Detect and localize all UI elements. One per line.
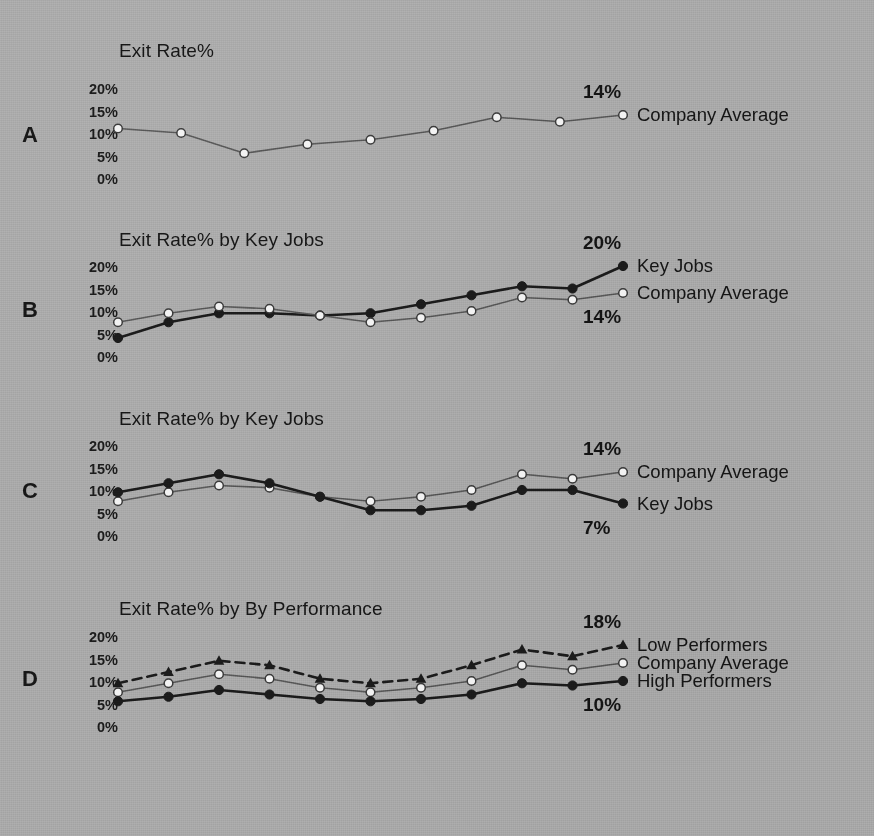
data-point-marker [416, 300, 425, 309]
y-tick-label: 15% [89, 283, 118, 298]
data-point-marker [366, 506, 375, 515]
data-point-marker [618, 639, 629, 649]
data-point-marker [164, 692, 173, 701]
end-value-annotation-company-average: 14% [583, 439, 621, 458]
data-point-marker [568, 295, 577, 304]
data-point-marker [315, 694, 324, 703]
data-point-marker [164, 309, 173, 318]
data-point-marker [416, 694, 425, 703]
data-point-marker [177, 129, 186, 138]
data-point-marker [164, 479, 173, 488]
y-tick-label: 20% [89, 82, 118, 97]
plot-area-d [118, 594, 631, 740]
plot-area-c [118, 404, 631, 549]
series-company-average [114, 111, 628, 158]
series-key-jobs [113, 261, 627, 342]
series-line [118, 115, 623, 153]
data-point-marker [417, 492, 426, 501]
data-point-marker [467, 307, 476, 316]
data-point-marker [417, 313, 426, 322]
data-point-marker [366, 318, 375, 327]
data-point-marker [517, 282, 526, 291]
data-point-marker [366, 688, 375, 697]
y-tick-label: 15% [89, 105, 118, 120]
data-point-marker [303, 140, 312, 149]
data-point-marker [366, 497, 375, 506]
data-point-marker [517, 485, 526, 494]
data-point-marker [215, 670, 224, 679]
data-point-marker [429, 126, 438, 135]
series-label-key-jobs: Key Jobs [637, 257, 713, 276]
data-point-marker [568, 485, 577, 494]
data-point-marker [164, 679, 173, 688]
panel-letter-d: D [22, 666, 38, 692]
end-value-annotation-key-jobs: 7% [583, 518, 610, 537]
data-point-marker [618, 261, 627, 270]
data-point-marker [113, 488, 122, 497]
plot-area-b [118, 225, 631, 370]
panel-letter-b: B [22, 297, 38, 323]
series-label-company-average: Company Average [637, 284, 789, 303]
y-tick-label: 15% [89, 462, 118, 477]
data-point-marker [619, 111, 628, 120]
data-point-marker [568, 474, 577, 483]
data-point-marker [366, 309, 375, 318]
y-tick-label: 20% [89, 630, 118, 645]
data-point-marker [215, 302, 224, 311]
y-tick-label: 20% [89, 260, 118, 275]
data-point-marker [618, 499, 627, 508]
series-label-high-performers: High Performers [637, 672, 772, 691]
data-point-marker [517, 679, 526, 688]
data-point-marker [518, 470, 527, 479]
data-point-marker [164, 318, 173, 327]
data-point-marker [492, 113, 501, 122]
data-point-marker [114, 688, 123, 697]
data-point-marker [467, 690, 476, 699]
data-point-marker [265, 690, 274, 699]
data-point-marker [467, 486, 476, 495]
data-point-marker [113, 333, 122, 342]
figure-stage: AExit Rate%20%15%10%5%0%Company Average1… [0, 0, 874, 836]
data-point-marker [315, 492, 324, 501]
data-point-marker [416, 506, 425, 515]
data-point-marker [265, 479, 274, 488]
panel-letter-a: A [22, 122, 38, 148]
plot-area-a [118, 36, 631, 192]
data-point-marker [114, 497, 123, 506]
series-line [118, 645, 623, 683]
data-point-marker [114, 124, 123, 133]
data-point-marker [467, 501, 476, 510]
y-tick-label: 5% [97, 507, 118, 522]
data-point-marker [214, 685, 223, 694]
data-point-marker [518, 293, 527, 302]
data-point-marker [619, 659, 628, 668]
data-point-marker [316, 311, 325, 320]
data-point-marker [568, 284, 577, 293]
y-tick-label: 20% [89, 439, 118, 454]
data-point-marker [619, 289, 628, 298]
data-point-marker [366, 697, 375, 706]
series-company-average [114, 468, 628, 506]
data-point-marker [556, 117, 565, 126]
data-point-marker [316, 683, 325, 692]
series-label-key-jobs: Key Jobs [637, 495, 713, 514]
end-value-annotation-company-average: 14% [583, 82, 621, 101]
end-value-annotation-high-performers: 10% [583, 695, 621, 714]
y-tick-label: 15% [89, 653, 118, 668]
data-point-marker [568, 665, 577, 674]
data-point-marker [214, 470, 223, 479]
data-point-marker [467, 677, 476, 686]
data-point-marker [113, 697, 122, 706]
y-tick-label: 10% [89, 305, 118, 320]
series-label-company-average: Company Average [637, 106, 789, 125]
data-point-marker [618, 676, 627, 685]
y-tick-label: 0% [97, 350, 118, 365]
y-tick-label: 0% [97, 172, 118, 187]
data-point-marker [163, 666, 174, 676]
data-point-marker [619, 468, 628, 477]
data-point-marker [366, 135, 375, 144]
y-tick-label: 10% [89, 675, 118, 690]
data-point-marker [517, 644, 528, 654]
data-point-marker [240, 149, 249, 158]
y-tick-label: 0% [97, 720, 118, 735]
